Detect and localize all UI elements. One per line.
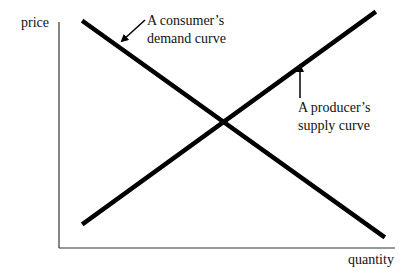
supply-annotation-line2: supply curve: [298, 117, 370, 135]
supply-curve-annotation: A producer’s supply curve: [298, 99, 370, 135]
demand-annotation-line1: A consumer’s: [147, 12, 226, 30]
consumer-arrow-icon: [122, 20, 145, 41]
supply-annotation-line1: A producer’s: [298, 99, 370, 117]
x-axis-label: quantity: [348, 251, 394, 269]
demand-curve-annotation: A consumer’s demand curve: [147, 12, 226, 48]
demand-annotation-line2: demand curve: [147, 30, 226, 48]
y-axis-label: price: [21, 14, 49, 32]
supply-demand-diagram: price quantity A consumer’s demand curve…: [0, 0, 417, 276]
